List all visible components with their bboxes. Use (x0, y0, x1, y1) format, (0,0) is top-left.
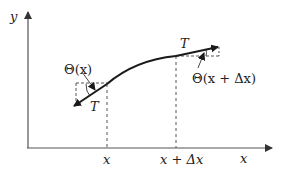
string-curve (107, 56, 176, 84)
right-angle-label: Θ(x + Δx) (192, 71, 256, 86)
x-axis-label: x (240, 151, 248, 166)
left-tension-label: T (90, 99, 100, 114)
string-element-diagram: y x Θ(x) Θ(x + Δx) T T x x + Δx (0, 0, 288, 170)
y-axis-label: y (9, 9, 18, 24)
left-angle-label: Θ(x) (64, 62, 92, 77)
tick-label-x-plus-dx: x + Δx (160, 152, 204, 167)
right-tension-label: T (180, 36, 190, 51)
tick-label-x: x (103, 152, 111, 167)
